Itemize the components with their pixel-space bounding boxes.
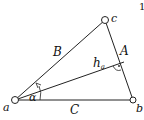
- label-b: b: [136, 102, 143, 115]
- label-side-A: A: [119, 44, 129, 58]
- right-angle-dot: [118, 65, 120, 67]
- right-angle-marker: [113, 66, 121, 71]
- vertex-a: [12, 97, 19, 104]
- figure-number: 1: [139, 1, 144, 12]
- angle-arrow-arc: [36, 83, 41, 88]
- label-a: a: [3, 101, 10, 114]
- side-A: [105, 20, 133, 100]
- vertex-c: [102, 17, 109, 24]
- label-altitude: ha: [93, 56, 105, 71]
- label-side-C: C: [70, 103, 79, 117]
- label-side-B: B: [52, 45, 62, 59]
- angle-alpha-arc: [39, 86, 41, 100]
- label-alpha: α: [29, 91, 37, 104]
- side-B: [15, 20, 105, 100]
- triangle-diagram: a b c A B C ha α 1: [0, 0, 144, 120]
- label-c: c: [111, 12, 117, 25]
